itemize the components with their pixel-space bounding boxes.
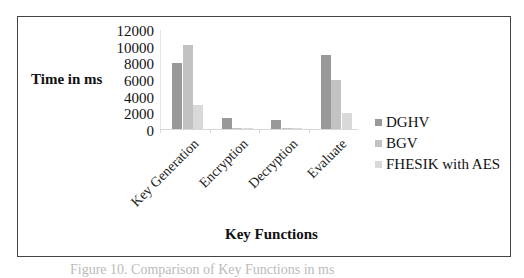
legend-swatch-icon — [375, 119, 382, 126]
legend-label: BGV — [386, 135, 418, 152]
bar-bgv — [282, 128, 292, 129]
y-tick: 4000 — [124, 91, 154, 106]
bar-dghv — [321, 55, 331, 129]
y-tick: 0 — [147, 124, 155, 139]
legend-label: DGHV — [386, 114, 429, 131]
bar-bgv — [183, 45, 193, 129]
legend: DGHV BGV FHESIK with AES — [375, 112, 500, 175]
legend-item-fhesik: FHESIK with AES — [375, 154, 500, 175]
legend-swatch-icon — [375, 140, 382, 147]
bar-fhesik-with-aes — [292, 128, 302, 129]
y-tick: 2000 — [124, 107, 154, 122]
bar-dghv — [271, 120, 281, 129]
legend-swatch-icon — [375, 161, 382, 168]
x-tick-mark — [160, 130, 161, 133]
x-tick-mark — [210, 130, 211, 133]
bar-bgv — [331, 80, 341, 130]
bar-dghv — [172, 63, 182, 129]
bar-bgv — [232, 128, 242, 129]
y-tick: 6000 — [124, 74, 154, 89]
bar-fhesik-with-aes — [342, 113, 352, 129]
bar-fhesik-with-aes — [243, 128, 253, 129]
y-axis-line — [160, 30, 161, 130]
y-tick: 10000 — [117, 41, 155, 56]
y-tick: 8000 — [124, 57, 154, 72]
x-axis-title: Key Functions — [225, 226, 318, 243]
y-axis-title: Time in ms — [31, 71, 102, 88]
legend-label: FHESIK with AES — [386, 156, 500, 173]
x-tick-mark — [309, 130, 310, 133]
figure-caption: Figure 10. Comparison of Key Functions i… — [70, 262, 334, 278]
legend-item-dghv: DGHV — [375, 112, 500, 133]
x-tick-mark — [259, 130, 260, 133]
y-tick: 12000 — [117, 24, 155, 39]
bar-fhesik-with-aes — [193, 105, 203, 129]
bar-dghv — [222, 118, 232, 129]
plot-area — [160, 30, 358, 130]
legend-item-bgv: BGV — [375, 133, 500, 154]
